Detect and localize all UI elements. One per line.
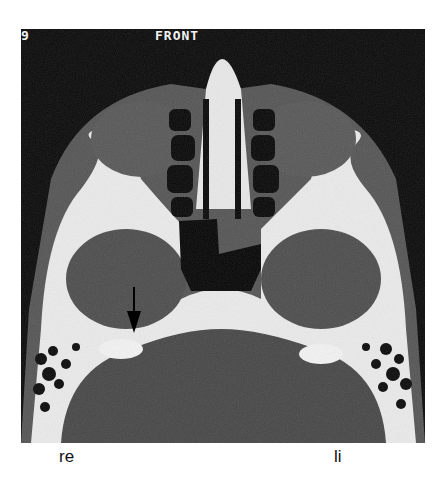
ct-anatomy-drawing xyxy=(21,29,425,443)
ct-scan-image: 9 FRONT xyxy=(21,29,425,443)
orientation-label: FRONT xyxy=(155,29,199,42)
right-side-label: re xyxy=(59,447,74,467)
slice-number: 9 xyxy=(21,29,30,42)
left-side-label: li xyxy=(334,447,342,467)
